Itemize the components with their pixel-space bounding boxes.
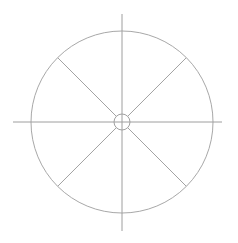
- spoke-south-east: [128, 128, 187, 187]
- spoke-north-west: [58, 58, 117, 117]
- spoke-north-east: [128, 58, 187, 117]
- spoke-south-west: [58, 128, 117, 187]
- wheel-diagram-svg: [0, 0, 238, 243]
- wheel-diagram-canvas: [0, 0, 238, 243]
